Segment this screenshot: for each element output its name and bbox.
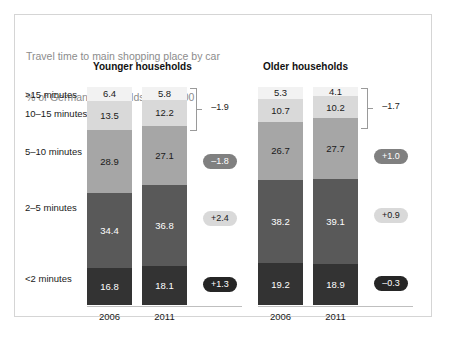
segment-5-10: 28.9: [87, 130, 132, 193]
year-label-older-2011: 2011: [313, 311, 358, 322]
bar-older-2011[interactable]: 4.1 10.2 27.7 39.1 18.9: [313, 87, 358, 305]
axis-line-younger: [87, 306, 242, 307]
delta-older-top-combined: –1.7: [374, 101, 408, 111]
brace-older-top: [361, 88, 368, 129]
delta-younger-under-2: +1.3: [203, 277, 237, 292]
group-header-older: Older households: [263, 61, 348, 72]
year-label-younger-2011: 2011: [142, 311, 187, 322]
year-label-older-2006: 2006: [258, 311, 303, 322]
delta-younger-top-combined: –1.9: [203, 102, 237, 112]
delta-older-2-5: +0.9: [374, 208, 408, 223]
chart-frame: Travel time to main shopping place by ca…: [14, 14, 432, 317]
category-label-under-2: <2 minutes: [25, 273, 72, 284]
bar-younger-2006[interactable]: 6.4 13.5 28.9 34.4 16.8: [87, 87, 132, 305]
segment-under-2: 16.8: [87, 268, 132, 305]
category-label-10-15: 10–15 minutes: [25, 108, 87, 119]
delta-older-5-10: +1.0: [374, 149, 408, 164]
category-label-over-15: >15 minutes: [25, 89, 77, 100]
segment-10-15: 10.2: [313, 96, 358, 118]
segment-over-15: 5.8: [142, 87, 187, 100]
brace-tick-older: [368, 108, 373, 109]
delta-older-under-2: –0.3: [374, 276, 408, 291]
bar-older-2006[interactable]: 5.3 10.7 26.7 38.2 19.2: [258, 87, 303, 305]
delta-younger-2-5: +2.4: [203, 211, 237, 226]
segment-under-2: 18.1: [142, 266, 187, 305]
segment-5-10: 27.7: [313, 118, 358, 178]
segment-2-5: 39.1: [313, 179, 358, 264]
bar-younger-2011[interactable]: 5.8 12.2 27.1 36.8 18.1: [142, 87, 187, 305]
group-header-younger: Younger households: [93, 61, 192, 72]
segment-over-15: 6.4: [87, 87, 132, 101]
segment-over-15: 4.1: [313, 87, 358, 96]
segment-10-15: 10.7: [258, 99, 303, 122]
segment-2-5: 34.4: [87, 193, 132, 268]
segment-over-15: 5.3: [258, 87, 303, 99]
segment-10-15: 12.2: [142, 100, 187, 127]
axis-line-older: [258, 306, 413, 307]
brace-tick-younger: [197, 109, 202, 110]
segment-5-10: 27.1: [142, 126, 187, 185]
segment-5-10: 26.7: [258, 122, 303, 180]
segment-2-5: 36.8: [142, 185, 187, 265]
delta-younger-5-10: –1.8: [203, 154, 237, 169]
segment-10-15: 13.5: [87, 101, 132, 130]
year-label-younger-2006: 2006: [87, 311, 132, 322]
category-label-2-5: 2–5 minutes: [25, 202, 77, 213]
segment-under-2: 19.2: [258, 263, 303, 305]
brace-younger-top: [190, 88, 197, 131]
segment-2-5: 38.2: [258, 180, 303, 263]
category-label-5-10: 5–10 minutes: [25, 146, 82, 157]
segment-under-2: 18.9: [313, 264, 358, 305]
